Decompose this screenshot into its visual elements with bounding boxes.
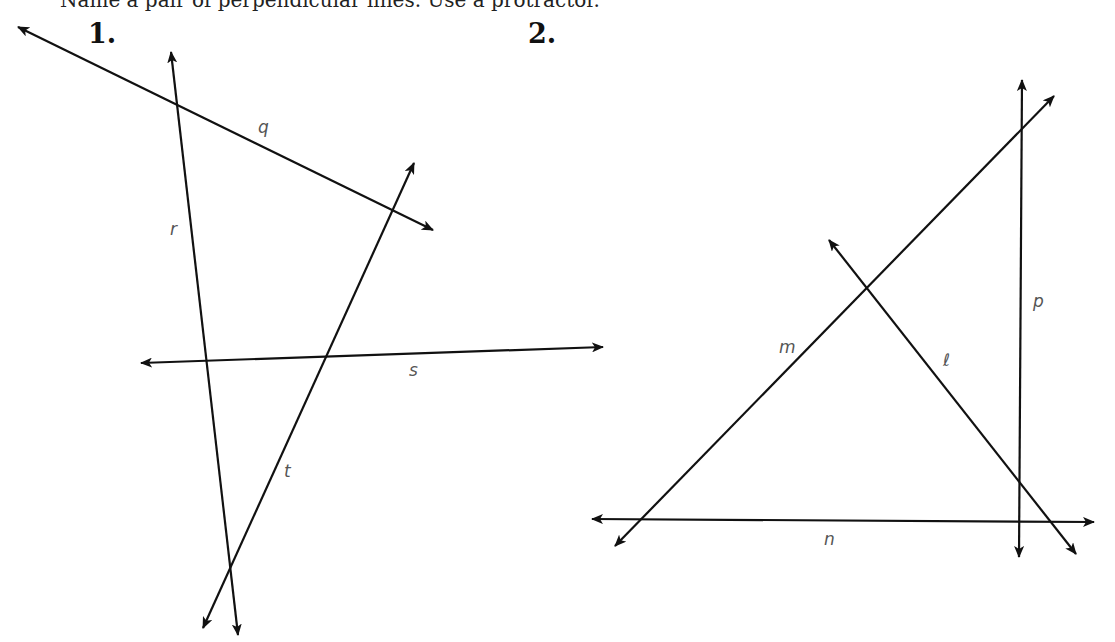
line-l bbox=[829, 240, 1076, 554]
figure-1 bbox=[18, 27, 603, 635]
label-line-l: ℓ bbox=[943, 350, 950, 370]
label-line-s: s bbox=[409, 360, 418, 380]
label-line-r: r bbox=[170, 219, 177, 239]
figures-canvas bbox=[0, 0, 1115, 642]
line-r bbox=[171, 52, 238, 635]
line-s bbox=[141, 347, 603, 363]
line-t bbox=[203, 163, 414, 628]
label-line-t: t bbox=[284, 461, 291, 481]
label-line-n: n bbox=[824, 529, 835, 549]
line-m bbox=[615, 96, 1054, 546]
label-line-p: p bbox=[1033, 291, 1044, 311]
label-line-q: q bbox=[258, 117, 269, 137]
line-q bbox=[18, 27, 433, 230]
figure-2 bbox=[592, 80, 1094, 557]
label-line-m: m bbox=[779, 337, 796, 357]
